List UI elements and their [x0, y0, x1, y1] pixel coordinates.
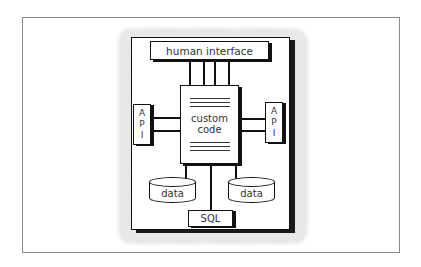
data-left-label: data: [161, 188, 184, 199]
sql-box: SQL: [188, 210, 233, 227]
api-right-box: A P I: [265, 102, 283, 143]
sql-label: SQL: [201, 213, 221, 224]
code-line-icon: [190, 102, 230, 103]
custom-code-label-1: custom: [191, 113, 228, 124]
custom-code-label-2: code: [197, 124, 221, 135]
api-left-letter: A: [139, 108, 145, 119]
data-store-right: data: [228, 177, 275, 204]
connector-hi-4: [228, 60, 230, 85]
human-interface-box: human interface: [150, 41, 269, 60]
human-interface-label: human interface: [166, 45, 253, 57]
connector-hi-2: [203, 60, 205, 85]
api-right-letter: P: [271, 117, 276, 128]
code-line-icon: [190, 150, 230, 151]
data-store-left: data: [149, 177, 196, 204]
connector-api-right-2: [242, 130, 265, 132]
code-line-icon: [190, 106, 230, 107]
api-right-letter: I: [273, 128, 276, 139]
custom-code-box: custom code: [180, 85, 239, 164]
cylinder-top-icon: [228, 177, 275, 187]
connector-sql: [210, 164, 212, 210]
data-right-label: data: [240, 188, 263, 199]
connector-hi-3: [214, 60, 216, 85]
connector-api-right-1: [242, 118, 265, 120]
api-left-box: A P I: [133, 104, 151, 145]
cylinder-top-icon: [149, 177, 196, 187]
connector-api-left-1: [152, 117, 180, 119]
api-right-letter: A: [271, 106, 277, 117]
api-left-letter: I: [141, 130, 144, 141]
connector-hi-1: [189, 60, 191, 85]
code-line-icon: [190, 142, 230, 143]
api-left-letter: P: [139, 119, 144, 130]
code-line-icon: [190, 146, 230, 147]
code-line-icon: [190, 98, 230, 99]
connector-api-left-2: [152, 130, 180, 132]
